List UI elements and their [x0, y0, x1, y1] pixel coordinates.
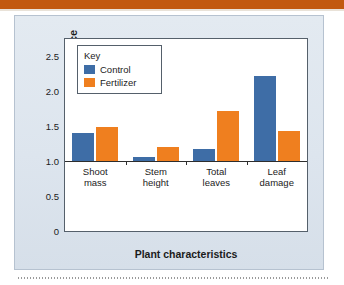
legend-label: Fertilizer [100, 77, 136, 88]
legend-swatch-control [84, 65, 95, 74]
bar-control-total-leaves [193, 149, 215, 161]
bar-group [247, 39, 308, 231]
y-axis-tick-labels: 00.51.01.52.02.5 [33, 38, 59, 232]
chart-legend: Key ControlFertilizer [77, 45, 162, 94]
y-tick-label: 0 [33, 226, 59, 237]
bar-fertilizer-leaf-damage [278, 131, 300, 161]
bar-control-shoot-mass [72, 133, 94, 162]
bar-fertilizer-total-leaves [217, 111, 239, 161]
legend-label: Control [100, 64, 131, 75]
y-tick-label: 0.5 [33, 191, 59, 202]
y-tick-label: 2.0 [33, 86, 59, 97]
legend-title: Key [84, 50, 155, 61]
bar-fertilizer-shoot-mass [96, 127, 118, 161]
legend-entry-fertilizer: Fertilizer [84, 77, 155, 88]
figure-panel: Relative performance 00.51.01.52.02.5 Sh… [14, 15, 324, 270]
bottom-dotted-rule [18, 277, 330, 279]
bar-group [186, 39, 247, 231]
top-orange-rule [0, 0, 344, 9]
legend-entry-control: Control [84, 64, 155, 75]
legend-entries: ControlFertilizer [84, 64, 155, 88]
top-rule-shadow [0, 9, 344, 11]
bar-control-stem-height [133, 157, 155, 161]
bar-fertilizer-stem-height [157, 147, 179, 162]
x-axis-title: Plant characteristics [64, 248, 308, 260]
y-tick-label: 1.5 [33, 121, 59, 132]
bar-control-leaf-damage [254, 76, 276, 161]
y-tick-label: 2.5 [33, 51, 59, 62]
y-tick-label: 1.0 [33, 156, 59, 167]
legend-swatch-fertilizer [84, 78, 95, 87]
